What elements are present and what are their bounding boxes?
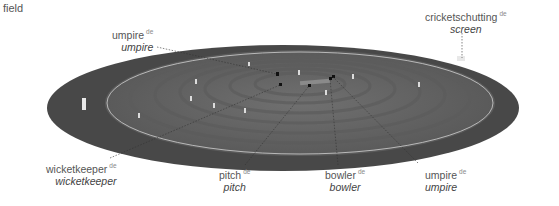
label-pitch: pitchde pitch bbox=[219, 166, 250, 193]
language-tag: de bbox=[146, 28, 153, 35]
translation: umpire bbox=[425, 181, 466, 193]
label-screen: cricketschuttingde screen bbox=[425, 8, 507, 35]
translation: wicketkeeper bbox=[46, 175, 117, 187]
language-tag: de bbox=[358, 168, 365, 175]
sight-screen-right bbox=[457, 56, 465, 61]
label-bowler: bowlerde bowler bbox=[325, 166, 365, 193]
translation: bowler bbox=[325, 181, 365, 193]
term: umpire bbox=[425, 169, 457, 181]
translation: screen bbox=[425, 23, 507, 35]
language-tag: de bbox=[499, 10, 506, 17]
label-wicketkeeper: wicketkeeperde wicketkeeper bbox=[46, 160, 117, 187]
translation: pitch bbox=[219, 181, 250, 193]
translation: umpire bbox=[112, 41, 153, 53]
language-tag: de bbox=[459, 168, 466, 175]
label-umpire-top: umpirede umpire bbox=[112, 26, 153, 53]
term: wicketkeeper bbox=[46, 163, 107, 175]
term: bowler bbox=[325, 169, 356, 181]
sight-screen-left bbox=[82, 98, 86, 110]
language-tag: de bbox=[243, 168, 250, 175]
term: cricketschutting bbox=[425, 11, 497, 23]
language-tag: de bbox=[109, 162, 116, 169]
label-umpire-bottom: umpirede umpire bbox=[425, 166, 466, 193]
term: umpire bbox=[112, 29, 144, 41]
term: pitch bbox=[219, 169, 241, 181]
